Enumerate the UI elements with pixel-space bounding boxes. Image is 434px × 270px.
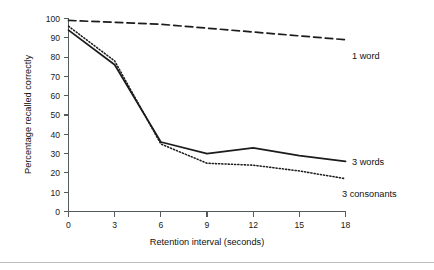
y-tick-label-50: 50 <box>50 110 60 120</box>
series-label-one-word: 1 word <box>352 51 380 61</box>
x-tick-label-12: 12 <box>248 220 258 230</box>
y-tick-label-100: 100 <box>46 14 61 24</box>
y-tick-label-20: 20 <box>50 168 60 178</box>
retention-interval-line-chart: 100 90 80 70 60 50 40 30 20 10 0 0 3 6 <box>0 0 434 270</box>
x-axis-title: Retention interval (seconds) <box>150 237 264 247</box>
series-label-three-consonants: 3 consonants <box>342 189 397 199</box>
y-tick-label-0: 0 <box>55 207 60 217</box>
figure-container: 100 90 80 70 60 50 40 30 20 10 0 0 3 6 <box>0 0 434 270</box>
y-tick-label-40: 40 <box>50 130 60 140</box>
x-tick-label-18: 18 <box>341 220 351 230</box>
x-tick-label-3: 3 <box>112 220 117 230</box>
y-tick-label-90: 90 <box>50 33 60 43</box>
series-label-three-words: 3 words <box>352 157 385 167</box>
x-tick-label-0: 0 <box>66 220 71 230</box>
y-tick-label-10: 10 <box>50 188 60 198</box>
y-tick-label-80: 80 <box>50 52 60 62</box>
y-tick-label-30: 30 <box>50 149 60 159</box>
y-tick-label-70: 70 <box>50 72 60 82</box>
x-tick-label-9: 9 <box>205 220 210 230</box>
y-axis-title: Percentage recalled correctly <box>23 55 33 174</box>
x-tick-label-6: 6 <box>158 220 163 230</box>
y-tick-label-60: 60 <box>50 91 60 101</box>
chart-background <box>0 0 434 270</box>
x-tick-label-15: 15 <box>295 220 305 230</box>
